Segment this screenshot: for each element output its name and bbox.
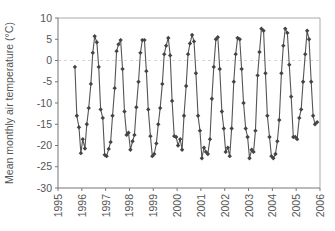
data-point-marker xyxy=(245,135,249,139)
data-point-marker xyxy=(122,109,126,113)
y-tick-label: 5 xyxy=(46,33,52,45)
data-point-marker xyxy=(107,147,111,151)
data-point-marker xyxy=(303,52,307,56)
data-point-marker xyxy=(176,143,180,147)
data-point-marker xyxy=(180,148,184,152)
data-point-marker xyxy=(110,114,114,118)
data-point-marker xyxy=(263,71,267,75)
data-series xyxy=(73,26,320,160)
data-point-marker xyxy=(138,51,142,55)
data-point-marker xyxy=(257,50,261,54)
data-point-marker xyxy=(281,43,285,47)
y-tick-label: -5 xyxy=(43,75,52,87)
x-tick-label: 1999 xyxy=(147,194,159,218)
data-point-marker xyxy=(273,152,277,156)
data-point-marker xyxy=(132,133,136,137)
data-point-marker xyxy=(87,106,91,110)
data-point-marker xyxy=(196,114,200,118)
data-point-marker xyxy=(287,63,291,67)
data-point-marker xyxy=(228,154,232,158)
data-point-marker xyxy=(162,52,166,56)
data-point-marker xyxy=(101,116,105,120)
data-point-marker xyxy=(247,156,251,160)
data-point-marker xyxy=(146,107,150,111)
data-point-marker xyxy=(297,116,301,120)
data-point-marker xyxy=(307,37,311,41)
data-point-marker xyxy=(309,80,313,84)
data-point-marker xyxy=(178,137,182,141)
data-point-marker xyxy=(85,122,89,126)
data-point-marker xyxy=(95,40,99,44)
data-point-marker xyxy=(116,42,120,46)
data-point-marker xyxy=(305,29,309,33)
y-tick-label: -15 xyxy=(37,118,52,130)
x-tick-label: 2006 xyxy=(314,194,326,218)
x-tick-label: 2000 xyxy=(171,194,183,218)
data-point-marker xyxy=(164,43,168,47)
data-point-marker xyxy=(73,65,77,69)
data-point-marker xyxy=(91,51,95,55)
data-point-marker xyxy=(289,94,293,98)
data-point-marker xyxy=(210,97,214,101)
data-point-marker xyxy=(243,126,247,130)
series-line xyxy=(75,29,317,159)
data-point-marker xyxy=(285,31,289,35)
y-tick-label: -20 xyxy=(37,139,52,151)
data-point-marker xyxy=(77,125,81,129)
data-point-marker xyxy=(202,145,206,149)
x-axis: 1995199619971998199920002001200220032004… xyxy=(52,188,326,217)
y-axis: 1050-5-10-15-20-25-30 xyxy=(37,12,58,194)
y-tick-label: 10 xyxy=(40,12,52,24)
data-point-marker xyxy=(301,80,305,84)
data-point-marker xyxy=(98,107,102,111)
data-point-marker xyxy=(283,26,287,30)
data-point-marker xyxy=(232,80,236,84)
data-point-marker xyxy=(208,137,212,141)
x-tick-label: 1996 xyxy=(76,194,88,218)
data-point-marker xyxy=(192,39,196,43)
data-point-marker xyxy=(198,128,202,132)
x-tick-label: 1997 xyxy=(100,194,112,218)
x-tick-label: 2004 xyxy=(266,194,278,218)
data-point-marker xyxy=(277,118,281,122)
x-tick-label: 1998 xyxy=(123,194,135,218)
data-point-marker xyxy=(182,114,186,118)
data-point-marker xyxy=(118,38,122,42)
data-point-marker xyxy=(166,36,170,40)
data-point-marker xyxy=(241,101,245,105)
data-point-marker xyxy=(188,41,192,45)
y-tick-label: -25 xyxy=(37,160,52,172)
data-point-marker xyxy=(311,114,315,118)
y-tick-label: -30 xyxy=(37,182,52,194)
data-point-marker xyxy=(120,67,124,71)
temperature-line-chart: 1050-5-10-15-20-25-30 199519961997199819… xyxy=(0,0,335,231)
data-point-marker xyxy=(112,86,116,90)
data-point-marker xyxy=(194,71,198,75)
data-point-marker xyxy=(128,148,132,152)
x-tick-label: 2003 xyxy=(243,194,255,218)
data-point-marker xyxy=(229,126,233,130)
data-point-marker xyxy=(79,151,83,155)
data-point-marker xyxy=(186,52,190,56)
data-point-marker xyxy=(220,109,224,113)
data-point-marker xyxy=(222,126,226,130)
y-axis-label: Mean monthly air temperature (°C) xyxy=(3,22,15,184)
data-point-marker xyxy=(168,53,172,57)
data-point-marker xyxy=(92,34,96,38)
data-point-marker xyxy=(299,107,303,111)
data-point-marker xyxy=(154,141,158,145)
data-point-marker xyxy=(190,33,194,37)
data-point-marker xyxy=(81,137,85,141)
x-tick-label: 2001 xyxy=(195,194,207,218)
data-point-marker xyxy=(200,156,204,160)
data-point-marker xyxy=(97,65,101,69)
data-point-marker xyxy=(265,114,269,118)
x-tick-label: 1995 xyxy=(52,194,64,218)
data-point-marker xyxy=(226,145,230,149)
data-point-marker xyxy=(212,65,216,69)
data-point-marker xyxy=(233,52,237,56)
data-point-marker xyxy=(223,150,227,154)
data-point-marker xyxy=(253,128,257,132)
data-point-marker xyxy=(83,146,87,150)
data-point-marker xyxy=(255,73,259,77)
